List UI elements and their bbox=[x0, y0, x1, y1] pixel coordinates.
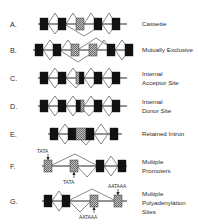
exon-alternative-polya-1 bbox=[90, 195, 98, 207]
row-letter-a: A. bbox=[10, 20, 17, 29]
exon-constitutive bbox=[44, 195, 52, 207]
exon-constitutive bbox=[40, 18, 48, 30]
exon-constitutive bbox=[110, 128, 118, 140]
exon-constitutive bbox=[94, 100, 102, 112]
row-label-f-line2: Promoters bbox=[142, 167, 171, 174]
motif-label-tata-2: TATA bbox=[63, 180, 75, 185]
row-label-c-line1: Internal bbox=[142, 70, 163, 77]
row-label-b: Mutually Exclusive bbox=[142, 46, 193, 53]
row-label-g-line2: Polyadenylation bbox=[142, 199, 186, 206]
exon-constitutive bbox=[107, 44, 115, 56]
motif-label-tata-1: TATA bbox=[37, 149, 49, 154]
row-letter-e: E. bbox=[10, 130, 17, 139]
exon-constitutive bbox=[62, 195, 70, 207]
exon-constitutive bbox=[53, 44, 61, 56]
row-letter-b: B. bbox=[10, 46, 17, 55]
alternative-splicing-diagram: A. Cassette B. bbox=[0, 0, 198, 224]
exon-constitutive bbox=[112, 72, 120, 84]
exon-constitutive bbox=[58, 72, 66, 84]
motif-label-aataaa-2: AATAAA bbox=[108, 184, 127, 189]
exon-alternative bbox=[89, 44, 97, 56]
row-label-c-line2: Acceptor Site bbox=[142, 79, 179, 86]
exon-constitutive bbox=[94, 18, 102, 30]
exon-alternative-promoter-1 bbox=[44, 160, 52, 172]
exon-constitutive bbox=[94, 72, 102, 84]
row-letter-d: D. bbox=[10, 102, 17, 111]
row-label-a: Cassette bbox=[142, 20, 167, 27]
row-label-d-line1: Internal bbox=[142, 98, 163, 105]
exon-constitutive bbox=[35, 44, 43, 56]
exon-constitutive bbox=[40, 72, 48, 84]
motif-label-aataaa-1: AATAAA bbox=[79, 215, 98, 220]
exon-alternative-donor-extension bbox=[81, 100, 84, 112]
exon-constitutive bbox=[112, 18, 120, 30]
row-label-e: Retained Intron bbox=[142, 130, 185, 137]
exon-alternative-promoter-2 bbox=[70, 160, 78, 172]
row-label-f-line1: Multiple bbox=[142, 158, 164, 165]
row-letter-f: F. bbox=[10, 162, 16, 171]
exon-constitutive bbox=[86, 128, 94, 140]
exon-constitutive bbox=[40, 100, 48, 112]
exon-alternative-acceptor-extension bbox=[76, 72, 79, 84]
exon-constitutive bbox=[96, 160, 104, 172]
row-label-g-line3: Sites bbox=[142, 208, 156, 215]
row-label-g-line1: Multiple bbox=[142, 190, 164, 197]
exon-constitutive bbox=[58, 18, 66, 30]
exon-constitutive bbox=[50, 128, 58, 140]
exon-constitutive bbox=[58, 100, 66, 112]
exon-constitutive bbox=[76, 100, 81, 112]
exon-alternative bbox=[71, 44, 79, 56]
exon-constitutive bbox=[112, 100, 120, 112]
exon-constitutive bbox=[118, 160, 126, 172]
exon-alternative-polya-2 bbox=[114, 195, 122, 207]
exon-constitutive bbox=[79, 72, 84, 84]
exon-constitutive bbox=[68, 128, 76, 140]
row-letter-g: G. bbox=[10, 197, 18, 206]
exon-retained-intron bbox=[76, 128, 86, 140]
exon-constitutive bbox=[125, 44, 133, 56]
exon-alternative bbox=[76, 18, 84, 30]
row-letter-c: C. bbox=[10, 74, 17, 83]
row-label-d-line2: Donor Site bbox=[142, 107, 172, 114]
